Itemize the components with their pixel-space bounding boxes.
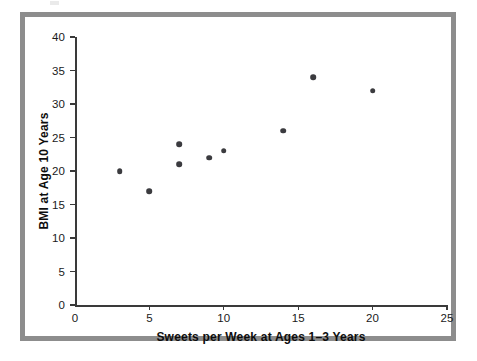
x-axis-tick-label: 25 [432,312,462,324]
scatter-plot-canvas: 0510152025303540 0510152025 Sweets per W… [25,17,451,336]
x-axis-line [75,305,447,307]
y-axis-tick [70,36,75,37]
data-point [147,188,153,194]
x-axis-tick [149,305,150,310]
data-point [176,141,182,147]
y-axis-line [75,37,77,305]
x-axis-tick [446,305,447,310]
x-axis-tick-label: 20 [358,312,388,324]
x-axis-tick [372,305,373,310]
x-axis-tick-label: 5 [134,312,164,324]
y-axis-tick [70,103,75,104]
y-axis-tick [70,70,75,71]
y-axis-tick [70,271,75,272]
x-axis-tick-label: 10 [209,312,239,324]
data-point [310,74,316,80]
x-axis-tick-label: 15 [283,312,313,324]
data-point [370,88,376,94]
figure-frame: 0510152025303540 0510152025 Sweets per W… [20,12,456,341]
x-axis-tick [298,305,299,310]
x-axis-tick-label: 0 [60,312,90,324]
x-axis-tick [223,305,224,310]
y-axis-tick [70,170,75,171]
y-axis-tick [70,237,75,238]
data-point [176,162,182,168]
y-axis-tick [70,204,75,205]
data-point [117,168,123,174]
y-axis-title: BMI at Age 10 Years [37,37,51,305]
data-point [221,148,227,154]
scan-artifact [50,1,59,5]
x-axis-title: Sweets per Week at Ages 1–3 Years [75,330,447,344]
y-axis-tick [70,137,75,138]
data-point [281,128,287,134]
y-axis-tick [70,304,75,305]
data-point [206,155,212,161]
